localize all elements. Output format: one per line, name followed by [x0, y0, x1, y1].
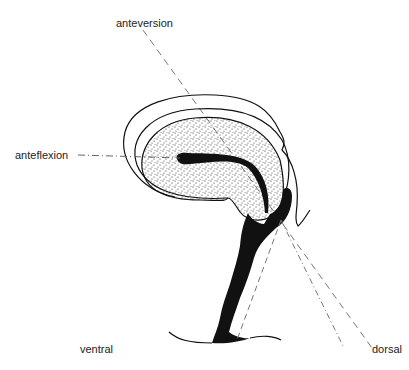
diagram-canvas — [0, 0, 409, 370]
uterine-body — [142, 117, 283, 220]
label-ventral: ventral — [80, 343, 113, 355]
label-anteversion: anteversion — [116, 17, 173, 29]
label-dorsal: dorsal — [372, 343, 402, 355]
label-anteflexion: anteflexion — [15, 149, 68, 161]
vaginal-axis-line-dotted — [281, 220, 344, 348]
